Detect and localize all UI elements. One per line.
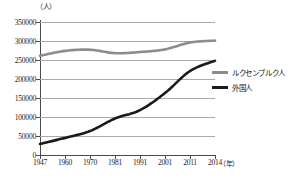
y-tick-mark	[36, 98, 40, 99]
x-tick-mark	[90, 155, 91, 159]
x-tick-mark	[115, 155, 116, 159]
legend-item-luxembourgers: ルクセンブルク人	[212, 66, 300, 79]
legend-swatch-luxembourgers	[212, 71, 228, 74]
legend-label-foreigners: 外国人	[232, 82, 252, 93]
x-tick-label: 1947	[33, 158, 47, 167]
y-tick-label: 300000	[15, 37, 36, 46]
series-line-luxembourgers	[40, 41, 215, 56]
y-tick-mark	[36, 60, 40, 61]
x-tick-label: 1960	[58, 158, 72, 167]
y-tick-label: 250000	[15, 56, 36, 65]
y-axis-unit-label: （人）	[36, 1, 56, 11]
legend-item-foreigners: 外国人	[212, 81, 300, 94]
y-tick-label: 150000	[15, 94, 36, 103]
y-tick-mark	[36, 79, 40, 80]
x-tick-mark	[40, 155, 41, 159]
y-tick-mark	[36, 22, 40, 23]
y-tick-label: 350000	[15, 18, 36, 27]
x-tick-label: 1970	[83, 158, 97, 167]
y-tick-label: 200000	[15, 75, 36, 84]
plot-area	[40, 22, 215, 155]
x-axis-unit-label: （年）	[219, 158, 239, 168]
y-tick-mark	[36, 136, 40, 137]
legend-label-luxembourgers: ルクセンブルク人	[232, 67, 285, 78]
series-lines	[40, 22, 215, 155]
x-axis-tick-labels: 19471960197019811991200120112014	[0, 158, 300, 172]
chart-container: （人） 050000100000150000200000250000300000…	[0, 0, 300, 186]
x-tick-mark	[65, 155, 66, 159]
x-tick-label: 2011	[183, 158, 197, 167]
x-tick-mark	[165, 155, 166, 159]
x-tick-mark	[190, 155, 191, 159]
y-tick-label: 50000	[18, 132, 36, 141]
series-line-foreigners	[40, 61, 215, 144]
y-tick-mark	[36, 117, 40, 118]
chart-legend: ルクセンブルク人 外国人	[212, 66, 300, 96]
legend-swatch-foreigners	[212, 86, 228, 89]
x-tick-label: 1991	[133, 158, 147, 167]
x-tick-label: 2001	[158, 158, 172, 167]
x-tick-mark	[215, 155, 216, 159]
x-tick-mark	[140, 155, 141, 159]
y-tick-mark	[36, 41, 40, 42]
y-tick-label: 100000	[15, 113, 36, 122]
x-tick-label: 1981	[108, 158, 122, 167]
